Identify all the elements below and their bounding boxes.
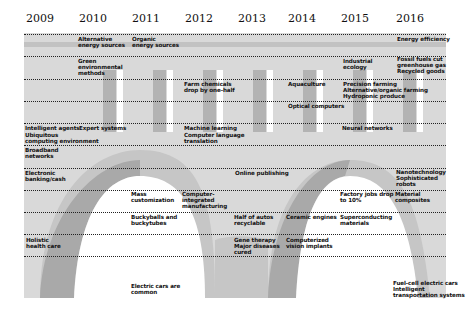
- year-2013: 2013: [238, 12, 266, 25]
- label-buckyballs: Buckyballs and buckytubes: [131, 214, 177, 226]
- label-gene-therapy: Gene therapy Major diseases cured: [234, 237, 280, 256]
- label-mass-customization: Mass customization: [131, 191, 174, 203]
- label-machine-learning: Machine learning: [184, 125, 237, 131]
- label-expert-systems: Expert systems: [79, 125, 126, 131]
- divider: [24, 234, 446, 235]
- label-nanotechnology: Nanotechnology Sophisticated robots: [396, 169, 446, 188]
- year-2012: 2012: [185, 12, 213, 25]
- label-alternative-energy: Alternative energy sources: [78, 36, 125, 48]
- label-farm-chemicals: Farm chemicals drop by one-half: [184, 81, 235, 93]
- divider: [24, 56, 446, 57]
- arch-shapes: [0, 0, 471, 314]
- divider: [24, 34, 446, 35]
- year-2010: 2010: [79, 12, 107, 25]
- label-fuel-cell: Fuel-cell electric cars Intelligent tran…: [393, 280, 465, 299]
- label-green-methods: Green environmental methods: [78, 58, 123, 77]
- label-material-composites: Material composites: [395, 191, 430, 203]
- label-superconducting: Superconducting materials: [340, 214, 392, 226]
- label-electronic-banking: Electronic banking/cash: [25, 170, 66, 182]
- label-broadband: Broadband networks: [25, 147, 59, 159]
- label-optical-computers: Optical computers: [288, 103, 344, 109]
- label-industrial-ecology: Industrial ecology: [343, 58, 372, 70]
- label-computer-integrated: Computer- integrated manufacturing: [182, 191, 227, 210]
- divider: [24, 101, 446, 102]
- label-half-autos: Half of autos recyclable: [234, 214, 273, 226]
- year-2014: 2014: [288, 12, 316, 25]
- divider: [24, 168, 446, 169]
- year-2011: 2011: [132, 12, 160, 25]
- year-2015: 2015: [341, 12, 369, 25]
- year-2016: 2016: [396, 12, 424, 25]
- label-precision-farming: Precision farming Alternative/organic fa…: [343, 81, 428, 100]
- label-energy-efficiency: Energy efficiency: [397, 36, 450, 42]
- label-online-publishing: Online publishing: [235, 170, 289, 176]
- label-ubiquitous-computing: Ubiquitous computing environment: [25, 132, 99, 144]
- divider: [24, 145, 446, 146]
- divider: [24, 79, 446, 80]
- label-computer-translation: Computer language translation: [184, 132, 244, 144]
- divider: [24, 256, 446, 257]
- label-neural-networks: Neural networks: [342, 125, 393, 131]
- label-electric-cars: Electric cars are common: [131, 283, 180, 295]
- label-intelligent-agents: Intelligent agents: [25, 125, 79, 131]
- label-ceramic-engines: Ceramic engines: [286, 214, 337, 220]
- label-fossil-fuels: Fossil fuels cut greenhouse gas Recycled…: [397, 56, 446, 75]
- label-aquaculture: Aquaculture: [288, 81, 325, 87]
- label-computerized-vision: Computerized vision implants: [286, 237, 333, 249]
- divider: [24, 212, 446, 213]
- divider: [24, 123, 446, 124]
- label-holistic-health: Holistic health care: [26, 237, 61, 249]
- label-organic-energy: Organic energy sources: [132, 36, 179, 48]
- year-2009: 2009: [26, 12, 54, 25]
- label-factory-jobs: Factory jobs drop to 10%: [340, 191, 393, 203]
